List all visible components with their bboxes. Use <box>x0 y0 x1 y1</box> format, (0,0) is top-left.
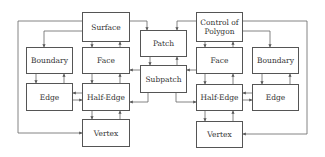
subpatch-box: Subpatch <box>140 65 187 93</box>
right-boundary-box: Boundary <box>252 47 299 74</box>
surface-label: Surface <box>91 23 120 32</box>
right-half-edge-box: Half-Edge <box>196 84 243 111</box>
subpatch-label: Subpatch <box>145 75 181 84</box>
left-vertex-label: Vertex <box>94 129 118 138</box>
right-face-label: Face <box>211 56 229 65</box>
surface-box: Surface <box>82 12 130 42</box>
control-polygon-box: Control of Polygon <box>196 12 243 42</box>
left-vertex-box: Vertex <box>82 119 130 147</box>
left-face-label: Face <box>97 56 115 65</box>
right-face-box: Face <box>196 47 243 74</box>
control-polygon-label: Control of Polygon <box>200 18 240 36</box>
patch-box: Patch <box>140 30 187 57</box>
right-vertex-label: Vertex <box>207 130 231 139</box>
left-edge-box: Edge <box>26 83 73 111</box>
right-edge-label: Edge <box>266 93 286 102</box>
left-half-edge-label: Half-Edge <box>87 93 125 102</box>
left-half-edge-box: Half-Edge <box>82 83 130 111</box>
right-vertex-box: Vertex <box>196 121 243 148</box>
left-edge-label: Edge <box>40 93 60 102</box>
patch-label: Patch <box>153 39 174 48</box>
right-boundary-label: Boundary <box>257 56 294 65</box>
left-boundary-label: Boundary <box>31 56 68 65</box>
right-half-edge-label: Half-Edge <box>201 93 239 102</box>
left-face-box: Face <box>82 47 130 74</box>
right-edge-box: Edge <box>252 84 299 111</box>
left-boundary-box: Boundary <box>26 47 73 74</box>
